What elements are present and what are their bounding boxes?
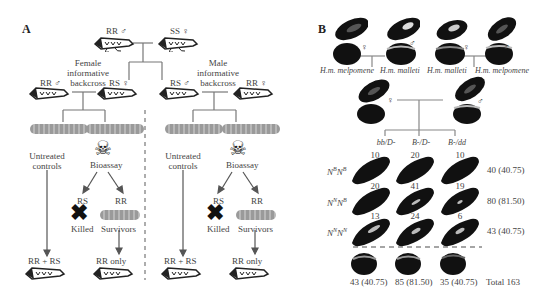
female-backcross-title-2: informative <box>64 68 112 78</box>
forewing-grid <box>350 155 500 250</box>
moth-icon <box>157 36 199 56</box>
parent-male-label: RR ♂ <box>106 26 127 36</box>
untreated-label-1: Untreated <box>163 151 203 161</box>
female-symbol: ♀ <box>387 95 394 105</box>
moth-icon <box>160 266 202 286</box>
hindwing-row <box>350 250 500 280</box>
row-genotype-label: NNNB <box>327 195 347 208</box>
moth-icon <box>92 266 134 286</box>
result-survivors-label: RR only <box>96 256 126 266</box>
butterfly-wings-icon <box>352 78 392 132</box>
killed-label: Killed <box>207 224 230 234</box>
cross1-female-label: H.m. melpomene <box>320 66 374 76</box>
rr-label: RR <box>251 196 263 206</box>
moth-icon <box>228 266 270 286</box>
grand-total: Total 163 <box>486 277 520 287</box>
caterpillar-icon <box>86 124 144 134</box>
skull-crossbones-icon: ☠ <box>229 138 247 158</box>
male-backcross-title-1: Male <box>198 58 238 68</box>
bioassay-label: Bioassay <box>90 160 123 170</box>
killed-x-icon: ✖ <box>70 202 88 224</box>
survivors-label: Survivors <box>238 224 273 234</box>
male-symbol: ♂ <box>477 96 484 106</box>
row-genotype-label: NBNB <box>327 164 346 177</box>
untreated-label-2: controls <box>27 161 67 171</box>
cross1-male-label: H.m. malleti <box>380 66 420 76</box>
panel-a-label: A <box>22 22 31 37</box>
genotype-col-1: bb/D- <box>370 138 402 148</box>
caterpillar-icon <box>100 210 140 220</box>
skull-crossbones-icon: ☠ <box>94 138 112 158</box>
parent-female-label: SS ♀ <box>170 26 189 36</box>
result-control-label: RR + RS <box>164 256 197 266</box>
killed-label: Killed <box>71 224 94 234</box>
caterpillar-icon <box>222 124 280 134</box>
column-total: 43 (40.75) <box>350 277 388 287</box>
male-symbol: ♂ <box>409 38 416 48</box>
caterpillar-icon <box>165 124 223 134</box>
row-genotype-label: NNNN <box>327 225 347 238</box>
female-backcross-title-1: Female <box>68 58 108 68</box>
moth-icon <box>158 86 200 106</box>
result-survivors-label: RR only <box>232 256 262 266</box>
moth-icon <box>232 86 274 106</box>
moth-icon <box>28 86 70 106</box>
female-symbol: ♀ <box>463 42 470 52</box>
female-symbol: ♀ <box>361 42 368 52</box>
bioassay-label: Bioassay <box>226 160 259 170</box>
genotype-col-2: B-/D- <box>405 138 437 148</box>
butterfly-wings-icon <box>480 16 518 72</box>
cross2-female-label: H.m. malleti <box>427 66 467 76</box>
column-total: 35 (40.75) <box>440 277 478 287</box>
moth-icon <box>96 86 138 106</box>
survivors-label: Survivors <box>101 224 136 234</box>
genotype-col-3: B-/dd <box>441 138 473 148</box>
caterpillar-icon <box>236 210 276 220</box>
caterpillar-icon <box>30 124 88 134</box>
cross2-male-label: H.m. melpomene <box>475 66 529 76</box>
untreated-label-1: Untreated <box>27 151 67 161</box>
rr-label: RR <box>115 196 127 206</box>
moth-icon <box>24 266 66 286</box>
male-backcross-title-2: informative <box>194 68 242 78</box>
killed-x-icon: ✖ <box>206 202 224 224</box>
male-symbol: ♂ <box>503 42 510 52</box>
panel-b-label: B <box>318 22 326 37</box>
moth-icon <box>93 36 135 56</box>
column-total: 85 (81.50) <box>395 277 433 287</box>
result-control-label: RR + RS <box>28 256 61 266</box>
untreated-label-2: controls <box>163 161 203 171</box>
